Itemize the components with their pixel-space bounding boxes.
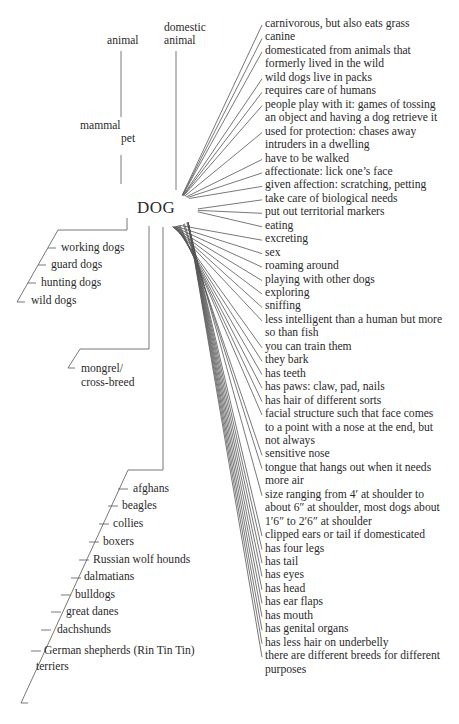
attribute-item: given affection: scratching, petting xyxy=(265,178,426,191)
breed-item: terriers xyxy=(36,660,69,673)
attribute-item: roaming around xyxy=(265,259,339,272)
attribute-item: domesticated from animals that xyxy=(265,44,411,57)
attribute-item: tongue that hangs out when it needs xyxy=(265,461,431,474)
fan-line xyxy=(180,160,262,201)
attribute-item: excreting xyxy=(265,232,308,245)
node-mongrel-2: cross-breed xyxy=(81,376,134,389)
attribute-item: not always xyxy=(265,434,315,447)
fan-line xyxy=(188,222,262,550)
fan-line xyxy=(190,200,262,210)
hub-label: DOG xyxy=(137,198,175,218)
node-animal: animal xyxy=(107,34,139,47)
attribute-item: canine xyxy=(265,30,295,43)
breed-item: boxers xyxy=(103,535,134,548)
attribute-item: size ranging from 4′ at shoulder to xyxy=(265,488,424,501)
attribute-item: has ear flaps xyxy=(265,595,323,608)
fan-line xyxy=(180,92,262,200)
attribute-item: has less hair on underbelly xyxy=(265,636,389,649)
attribute-item: used for protection: chases away xyxy=(265,125,416,138)
attribute-item: more air xyxy=(265,474,304,487)
breed-item: dalmatians xyxy=(84,570,134,583)
attribute-item: has four legs xyxy=(265,542,324,555)
node-mongrel-1: mongrel/ xyxy=(81,362,123,375)
attribute-item: an object and having a dog retrieve it xyxy=(265,111,437,124)
attribute-item: so than fish xyxy=(265,326,318,339)
attribute-item: purposes xyxy=(265,663,306,676)
breed-item: Russian wolf hounds xyxy=(93,553,190,566)
fan-line xyxy=(180,38,262,200)
fan-line xyxy=(180,25,262,200)
attribute-item: carnivorous, but also eats grass xyxy=(265,17,410,30)
attribute-item: to a point with a nose at the end, but xyxy=(265,421,433,434)
fan-line xyxy=(180,186,262,200)
type-wild-dogs: wild dogs xyxy=(31,294,76,307)
attribute-item: clipped ears or tail if domesticated xyxy=(265,528,425,541)
fan-line xyxy=(180,79,262,200)
attribute-item: less intelligent than a human but more xyxy=(265,313,442,326)
attribute-item: there are different breeds for different xyxy=(265,649,440,662)
type-hunting-dogs: hunting dogs xyxy=(41,276,101,289)
type-guard-dogs: guard dogs xyxy=(51,258,102,271)
type-working-dogs: working dogs xyxy=(61,241,124,254)
fan-line xyxy=(180,133,262,200)
attribute-item: formerly lived in the wild xyxy=(265,57,384,70)
attribute-item: people play with it: games of tossing xyxy=(265,98,436,111)
fan-line xyxy=(188,222,262,536)
attribute-item: you can train them xyxy=(265,340,352,353)
attribute-item: has mouth xyxy=(265,609,313,622)
breed-item: afghans xyxy=(133,482,169,495)
breed-item: great danes xyxy=(66,605,118,618)
attribute-item: eating xyxy=(265,219,293,232)
attribute-item: exploring xyxy=(265,286,309,299)
attribute-item: has paws: claw, pad, nails xyxy=(265,380,385,393)
attribute-item: sensitive nose xyxy=(265,447,330,460)
attribute-item: has hair of different sorts xyxy=(265,394,381,407)
attribute-item: has head xyxy=(265,582,305,595)
node-pet: pet xyxy=(121,132,135,145)
attribute-item: playing with other dogs xyxy=(265,273,375,286)
node-domestic-animal-1: domestic xyxy=(164,21,206,34)
attribute-item: intruders in a dwelling xyxy=(265,138,370,151)
breed-item: dachshunds xyxy=(57,623,111,636)
attribute-item: sniffing xyxy=(265,299,301,312)
attribute-item: sex xyxy=(265,246,280,259)
fan-line xyxy=(188,222,262,563)
attribute-item: have to be walked xyxy=(265,152,349,165)
fan-line xyxy=(188,222,262,657)
attribute-item: has genital organs xyxy=(265,622,349,635)
attribute-item: about 6″ at shoulder, most dogs about xyxy=(265,501,440,514)
breed-item: bulldogs xyxy=(75,588,115,601)
attribute-item: 1′6″ to 2′6″ at shoulder xyxy=(265,515,372,528)
node-domestic-animal-2: animal xyxy=(164,34,196,47)
attribute-item: take care of biological needs xyxy=(265,192,398,205)
fan-line xyxy=(179,222,262,415)
breed-item: collies xyxy=(113,517,143,530)
attribute-item: facial structure such that face comes xyxy=(265,407,433,420)
attribute-item: they bark xyxy=(265,353,308,366)
fan-line xyxy=(180,52,262,200)
attribute-item: put out territorial markers xyxy=(265,205,384,218)
attribute-item: wild dogs live in packs xyxy=(265,71,372,84)
attribute-item: affectionate: lick one’s face xyxy=(265,165,393,178)
attribute-item: has tail xyxy=(265,555,298,568)
attribute-item: has teeth xyxy=(265,367,306,380)
breed-item: beagles xyxy=(122,499,157,512)
attribute-item: requires care of humans xyxy=(265,84,376,97)
breed-item: German shepherds (Rin Tin Tin) xyxy=(44,644,195,657)
attribute-item: has eyes xyxy=(265,568,304,581)
node-mammal: mammal xyxy=(80,119,121,132)
